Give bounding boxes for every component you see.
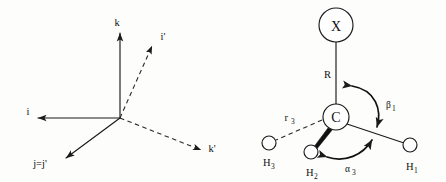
- atom-label-h2: H 2: [306, 167, 318, 181]
- molecule-group: X C R r 3 β 1 α 3: [262, 8, 418, 181]
- axis-label-k-prime: k': [208, 143, 215, 154]
- atom-label-h3: H 3: [263, 157, 275, 171]
- atom-h1-circle: [403, 138, 417, 152]
- angle-label-alpha3-sub: 3: [352, 168, 356, 177]
- bond-c-h3-dashed: [276, 120, 322, 140]
- axis-j-arrow: [66, 118, 120, 158]
- bond-label-r3-sub: 3: [291, 117, 295, 126]
- atom-label-h1-base: H: [406, 161, 414, 172]
- angle-arc-beta1: [352, 86, 379, 127]
- figure-canvas: k i j=j' i' k' X C: [0, 0, 446, 182]
- atom-h2-circle: [304, 145, 318, 159]
- angle-label-beta1-base: β: [386, 100, 391, 110]
- axis-k-prime-arrow: [120, 118, 201, 150]
- axis-label-i-prime: i': [161, 31, 166, 42]
- figure-svg: k i j=j' i' k' X C: [0, 0, 446, 182]
- atom-label-h3-base: H: [263, 157, 271, 168]
- atom-label-h1: H 1: [406, 161, 418, 175]
- atom-h3-circle: [262, 136, 276, 150]
- angle-label-alpha3-base: α: [345, 164, 350, 174]
- atom-label-h1-sub: 1: [414, 166, 418, 175]
- angle-label-alpha3: α 3: [345, 164, 356, 177]
- atom-label-h3-sub: 3: [271, 162, 275, 171]
- atom-label-h2-sub: 2: [314, 172, 318, 181]
- axis-label-j: j=j': [32, 158, 47, 169]
- axis-label-k: k: [114, 17, 120, 28]
- coordinate-axes-group: k i j=j' i' k': [27, 17, 216, 169]
- angle-label-beta1: β 1: [386, 100, 396, 113]
- bond-label-r3: r 3: [285, 112, 296, 126]
- atom-label-c: C: [331, 110, 340, 125]
- axis-i-prime-arrow: [120, 46, 152, 118]
- axis-label-i: i: [27, 106, 30, 117]
- bond-label-r3-base: r: [285, 112, 289, 123]
- angle-label-beta1-sub: 1: [392, 104, 396, 113]
- bond-c-h1: [347, 124, 404, 143]
- angle-arc-alpha3: [327, 140, 372, 159]
- atom-label-h2-base: H: [306, 167, 314, 178]
- atom-label-x: X: [331, 19, 341, 34]
- bond-label-r: R: [324, 69, 331, 80]
